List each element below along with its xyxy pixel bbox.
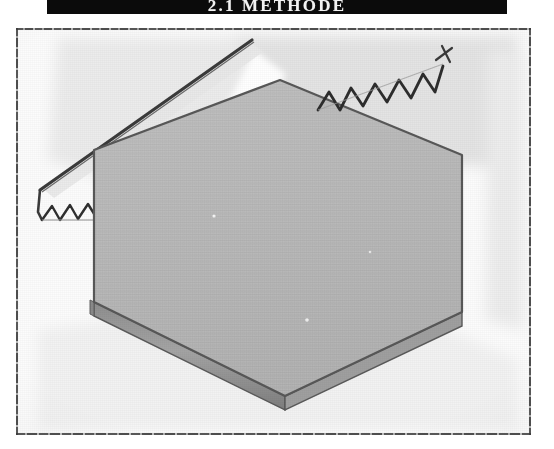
section-banner: 2.1 METHODE: [47, 0, 507, 14]
wash-right-strip: [486, 50, 523, 330]
figure-canvas: [18, 30, 529, 433]
slab-speckle: [212, 214, 215, 217]
slab-speckle: [305, 318, 309, 322]
section-heading: 2.1 METHODE: [208, 0, 347, 14]
frame-border-right: [529, 28, 531, 435]
slab-speckle: [369, 251, 372, 254]
figure-frame: [16, 28, 531, 435]
figure-illustration: [18, 30, 529, 433]
frame-border-bottom: [16, 433, 531, 435]
page-root: 2.1 METHODE: [0, 0, 554, 449]
